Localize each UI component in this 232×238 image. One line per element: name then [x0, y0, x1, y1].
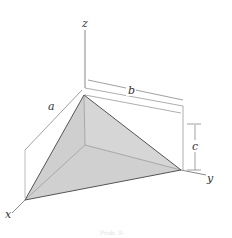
x-axis — [12, 200, 25, 213]
y-axis — [181, 170, 206, 175]
z-axis-label: z — [81, 17, 88, 30]
tetrahedron-diagram: z x y a b c Prob. 9– — [0, 0, 232, 238]
figure-caption: Prob. 9– — [100, 229, 125, 236]
x-axis-label: x — [5, 208, 12, 221]
dimension-c-label: c — [192, 140, 198, 153]
dimension-b-label: b — [128, 84, 135, 97]
dimension-a-label: a — [48, 100, 55, 113]
y-axis-label: y — [206, 172, 214, 185]
